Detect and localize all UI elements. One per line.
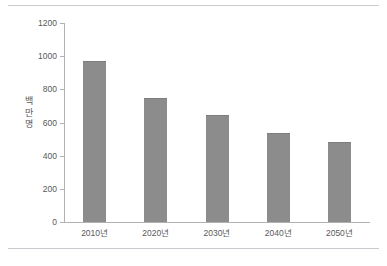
y-axis-line — [64, 23, 65, 223]
y-axis-tick-mark — [60, 89, 64, 90]
y-axis-tick-mark — [60, 222, 64, 223]
y-axis-tick-label: 0 — [52, 218, 57, 227]
y-axis-title-char-2: 만 — [22, 108, 36, 120]
y-axis-tick-mark — [60, 156, 64, 157]
bar — [83, 61, 106, 222]
bar — [328, 142, 351, 222]
y-axis-tick-label: 400 — [43, 151, 57, 160]
bar — [206, 115, 229, 222]
bar — [267, 133, 290, 222]
y-axis-tick-label: 200 — [43, 185, 57, 194]
x-axis-tick-label: 2040년 — [265, 229, 292, 238]
x-axis-tick-label: 2050년 — [326, 229, 353, 238]
y-axis-tick-mark — [60, 23, 64, 24]
y-axis-tick-mark — [60, 189, 64, 190]
x-axis-tick-label: 2010년 — [81, 229, 108, 238]
y-axis-tick-mark — [60, 123, 64, 124]
bar — [144, 98, 167, 222]
x-axis-line — [64, 222, 370, 223]
y-axis-title-char-1: 백 — [22, 96, 36, 108]
y-axis-tick-label: 600 — [43, 118, 57, 127]
plot-area: 020040060080010001200 2010년2020년2030년204… — [64, 23, 370, 223]
y-axis-title: 백 만 명 — [22, 96, 36, 131]
bottom-divider-rule — [8, 248, 379, 249]
y-axis-tick-label: 1200 — [38, 19, 57, 28]
x-axis-tick-label: 2030년 — [204, 229, 231, 238]
y-axis-tick-label: 800 — [43, 85, 57, 94]
top-divider-rule — [8, 5, 379, 6]
y-axis-title-char-3: 명 — [22, 119, 36, 131]
chart-figure: 백 만 명 020040060080010001200 2010년2020년20… — [0, 0, 387, 266]
y-axis-tick-label: 1000 — [38, 52, 57, 61]
x-axis-tick-label: 2020년 — [142, 229, 169, 238]
y-axis-tick-mark — [60, 56, 64, 57]
